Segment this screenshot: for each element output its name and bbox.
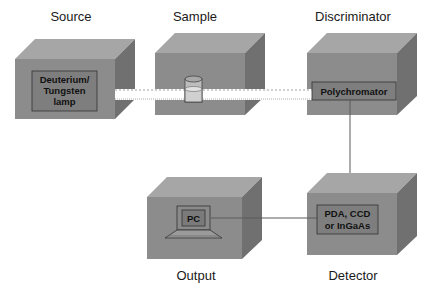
discriminator-title: Discriminator bbox=[315, 9, 392, 24]
source-label-line1: Deuterium/ bbox=[40, 74, 90, 85]
output-title: Output bbox=[176, 268, 215, 283]
discriminator-box bbox=[307, 33, 417, 115]
sample-box bbox=[155, 33, 265, 115]
source-label-line2: Tungsten bbox=[43, 85, 85, 96]
detector-title: Detector bbox=[328, 268, 378, 283]
polychromator-label: Polychromator bbox=[320, 86, 387, 97]
sample-title: Sample bbox=[173, 9, 217, 24]
detector-label-line1: PDA, CCD bbox=[325, 208, 371, 219]
light-beam bbox=[115, 89, 312, 100]
detector-label-line2: or InGaAs bbox=[325, 220, 370, 231]
cuvette-icon bbox=[185, 76, 202, 102]
source-box: Deuterium/ Tungsten lamp bbox=[15, 39, 135, 119]
source-title: Source bbox=[50, 9, 91, 24]
spectrometer-diagram: Source Sample Discriminator Output Detec… bbox=[0, 0, 430, 296]
pc-label: PC bbox=[187, 213, 200, 224]
source-label-line3: lamp bbox=[53, 96, 75, 107]
